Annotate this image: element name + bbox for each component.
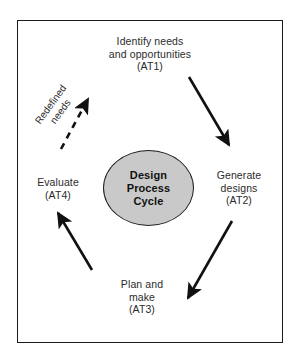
stage-at1-line-1: Identify needs bbox=[88, 35, 212, 48]
stage-at2-line-2: designs bbox=[200, 182, 278, 195]
stage-label-at2: Generate designs (AT2) bbox=[200, 169, 278, 207]
stage-at4-line-2: (AT4) bbox=[22, 189, 94, 202]
design-process-cycle-core: Design Process Cycle bbox=[103, 150, 194, 226]
stage-at4-line-1: Evaluate bbox=[22, 176, 94, 189]
stage-label-at1: Identify needs and opportunities (AT1) bbox=[88, 35, 212, 73]
stage-at2-line-3: (AT2) bbox=[200, 194, 278, 207]
stage-at2-line-1: Generate bbox=[200, 169, 278, 182]
core-line-1: Design bbox=[130, 169, 167, 182]
stage-at3-line-1: Plan and bbox=[100, 278, 184, 291]
stage-at3-line-2: make bbox=[100, 291, 184, 304]
core-line-2: Process bbox=[127, 182, 171, 195]
stage-at3-line-3: (AT3) bbox=[100, 303, 184, 316]
core-line-3: Cycle bbox=[134, 195, 164, 208]
stage-at1-line-2: and opportunities bbox=[88, 48, 212, 61]
stage-label-at4: Evaluate (AT4) bbox=[22, 176, 94, 201]
stage-label-at3: Plan and make (AT3) bbox=[100, 278, 184, 316]
design-process-cycle-diagram: Design Process Cycle Identify needs and … bbox=[0, 0, 300, 362]
stage-at1-line-3: (AT1) bbox=[88, 60, 212, 73]
